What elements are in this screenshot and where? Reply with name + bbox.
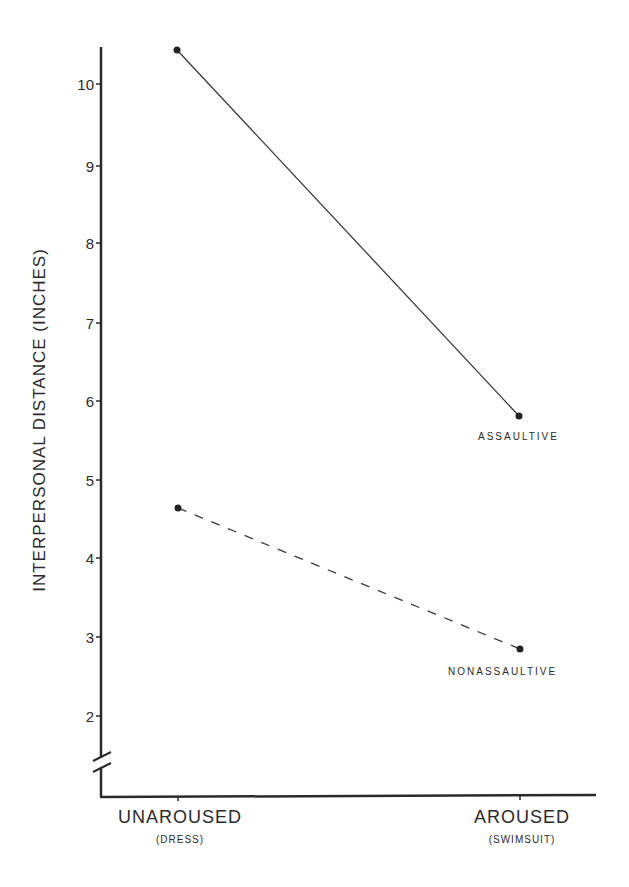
ytick-7: 7 — [86, 315, 94, 332]
series-label-nonassaultive: NONASSAULTIVE — [448, 666, 557, 677]
ytick-3: 3 — [86, 629, 94, 646]
ytick-5: 5 — [86, 472, 94, 489]
series-label-assaultive: ASSAULTIVE — [478, 431, 559, 442]
ytick-2: 2 — [86, 708, 94, 725]
series-assaultive-line — [177, 50, 519, 416]
x-subcategory-dress: (DRESS) — [156, 834, 204, 845]
x-category-aroused: AROUSED — [474, 807, 570, 827]
y-tick-labels: 10 9 8 7 6 5 4 3 2 — [77, 76, 94, 725]
point-assaultive-unaroused — [174, 47, 181, 54]
x-subcategory-swimsuit: (SWIMSUIT) — [489, 834, 556, 845]
point-nonassaultive-unaroused — [175, 505, 182, 512]
ytick-4: 4 — [86, 550, 94, 567]
point-assaultive-aroused — [516, 413, 523, 420]
ytick-9: 9 — [86, 158, 94, 175]
ytick-8: 8 — [86, 235, 94, 252]
x-axis — [100, 795, 596, 797]
x-category-unaroused: UNAROUSED — [118, 807, 242, 827]
point-nonassaultive-aroused — [517, 646, 524, 653]
series-nonassaultive-line — [178, 508, 520, 649]
ytick-6: 6 — [86, 393, 94, 410]
ytick-10: 10 — [77, 76, 94, 93]
y-axis-label: INTERPERSONAL DISTANCE (INCHES) — [30, 248, 49, 592]
chart: 10 9 8 7 6 5 4 3 2 INTERPERSONAL DISTANC… — [0, 0, 629, 887]
